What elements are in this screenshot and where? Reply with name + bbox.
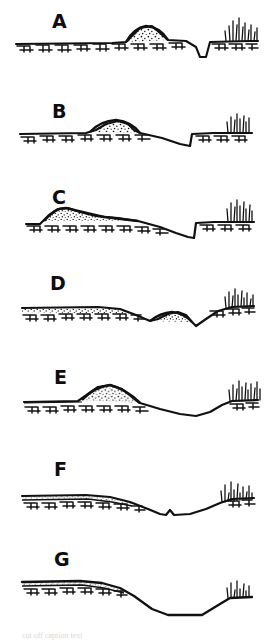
panel-label-e: E	[54, 368, 67, 387]
panel-label-f: F	[54, 460, 67, 479]
panel-d: D	[0, 266, 280, 356]
hatching-b	[21, 135, 247, 143]
ground-body-c	[26, 208, 254, 238]
cut-off-caption: cut off caption text	[22, 631, 202, 640]
panel-g: G	[0, 536, 280, 640]
panel-d-drawing	[0, 266, 280, 356]
panel-f-drawing	[0, 446, 280, 536]
panel-b-drawing	[0, 88, 280, 178]
grass-tuft-g	[227, 581, 249, 598]
panel-label-b: B	[52, 102, 66, 121]
grass-tuft-e	[229, 381, 260, 401]
hatching-c	[27, 225, 251, 235]
grass-tuft-b	[227, 114, 249, 133]
panel-g-drawing	[0, 536, 280, 640]
panel-e-drawing	[0, 356, 280, 446]
panel-c-drawing	[0, 176, 280, 268]
grass-tuft-a	[225, 18, 257, 41]
panel-label-c: C	[52, 188, 66, 207]
panel-label-g: G	[54, 550, 70, 569]
ground-body-b	[20, 120, 252, 146]
panel-f: F	[0, 446, 280, 536]
panel-label-d: D	[50, 274, 66, 293]
panel-label-a: A	[52, 12, 67, 31]
panel-c: C	[0, 176, 280, 268]
panel-a-drawing	[0, 0, 280, 90]
cross-section-figure: A B	[0, 0, 280, 640]
grass-tuft-c	[227, 200, 252, 222]
ground-body-g	[22, 581, 252, 615]
panel-b: B	[0, 88, 280, 178]
ground-body-f	[22, 495, 254, 515]
panel-e: E	[0, 356, 280, 446]
panel-a: A	[0, 0, 280, 90]
